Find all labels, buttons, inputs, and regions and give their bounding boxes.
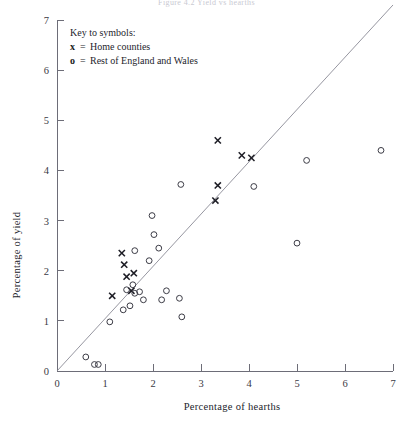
legend-equals-rest-of-england: = xyxy=(80,55,86,66)
point-circle-1-5 xyxy=(127,303,133,309)
point-circle-1-11 xyxy=(132,248,138,254)
point-circle-1-0 xyxy=(83,354,89,360)
point-circle-1-14 xyxy=(151,232,157,238)
y-axis-title: Percentage of yield xyxy=(11,211,22,298)
point-circle-1-23 xyxy=(304,158,310,164)
legend-equals-home-counties: = xyxy=(80,41,86,52)
data-points xyxy=(83,137,384,367)
point-circle-1-22 xyxy=(294,240,300,246)
point-cross-0-6 xyxy=(215,137,221,143)
point-circle-1-12 xyxy=(146,258,152,264)
point-cross-0-7 xyxy=(215,182,221,188)
legend-symbol-home-counties: x xyxy=(70,41,75,52)
legend-symbol-rest-of-england: o xyxy=(70,55,75,66)
point-circle-1-15 xyxy=(156,245,162,251)
point-cross-0-9 xyxy=(239,152,245,158)
x-axis-ticks: 01234567 xyxy=(54,364,395,389)
x-tick-label-4: 4 xyxy=(246,378,252,389)
x-tick-label-1: 1 xyxy=(102,378,107,389)
point-circle-1-13 xyxy=(149,213,155,219)
point-circle-1-21 xyxy=(251,184,257,190)
point-circle-1-19 xyxy=(179,314,185,320)
point-cross-0-2 xyxy=(121,262,127,268)
scatter-plot-figure: Figure 4.2 Yield vs hearths 01234567 012… xyxy=(0,0,413,422)
y-axis-ticks: 01234567 xyxy=(44,15,64,377)
x-tick-label-0: 0 xyxy=(54,378,59,389)
point-circle-1-6 xyxy=(124,287,130,293)
x-tick-label-5: 5 xyxy=(294,378,299,389)
legend-heading: Key to symbols: xyxy=(70,27,136,38)
y-tick-label-7: 7 xyxy=(44,15,49,26)
legend: Key to symbols: x = Home counties o = Re… xyxy=(70,27,198,66)
series-home-counties xyxy=(109,137,254,299)
point-cross-0-4 xyxy=(131,270,137,276)
point-circle-1-16 xyxy=(159,297,165,303)
x-tick-label-2: 2 xyxy=(150,378,155,389)
series-rest-of-england xyxy=(83,147,384,367)
point-circle-1-24 xyxy=(378,147,384,153)
legend-label-home-counties: Home counties xyxy=(90,41,150,52)
point-cross-0-0 xyxy=(109,293,115,299)
point-cross-0-1 xyxy=(119,250,125,256)
plot-canvas: 01234567 01234567 Percentage of yield Pe… xyxy=(0,0,413,422)
point-circle-1-20 xyxy=(178,182,184,188)
point-circle-1-7 xyxy=(130,282,136,288)
point-circle-1-2 xyxy=(95,362,101,368)
y-tick-label-0: 0 xyxy=(44,366,49,377)
y-tick-label-1: 1 xyxy=(44,316,49,327)
point-cross-0-10 xyxy=(248,155,254,161)
x-tick-label-6: 6 xyxy=(342,378,347,389)
point-cross-0-3 xyxy=(124,274,130,280)
y-tick-label-5: 5 xyxy=(44,115,49,126)
x-tick-label-3: 3 xyxy=(198,378,203,389)
y-tick-label-6: 6 xyxy=(44,65,49,76)
x-axis-title: Percentage of hearths xyxy=(184,401,281,412)
y-tick-label-2: 2 xyxy=(44,266,49,277)
x-tick-label-7: 7 xyxy=(390,378,395,389)
y-tick-label-4: 4 xyxy=(44,165,50,176)
y-tick-label-3: 3 xyxy=(44,216,49,227)
point-circle-1-10 xyxy=(141,297,147,303)
point-circle-1-17 xyxy=(164,288,170,294)
point-circle-1-18 xyxy=(177,295,183,301)
legend-label-rest-of-england: Rest of England and Wales xyxy=(90,55,198,66)
point-circle-1-3 xyxy=(107,319,113,325)
point-circle-1-4 xyxy=(120,307,126,313)
axes xyxy=(57,20,393,371)
